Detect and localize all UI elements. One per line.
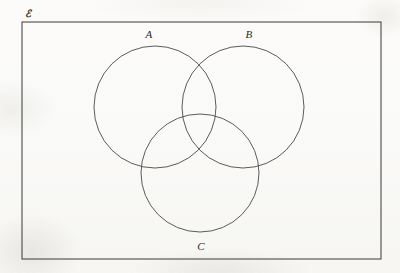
set-label-c: C <box>197 241 205 252</box>
set-circle-a <box>94 46 216 168</box>
set-label-a: A <box>146 29 153 40</box>
set-circle-b <box>182 46 304 168</box>
venn-diagram-canvas <box>0 0 400 273</box>
set-label-b: B <box>246 29 253 40</box>
venn-diagram-figure: ℰ A B C <box>0 0 400 273</box>
set-circle-c <box>141 114 259 232</box>
universal-set-rectangle <box>22 22 381 259</box>
universal-set-label: ℰ <box>25 9 31 19</box>
